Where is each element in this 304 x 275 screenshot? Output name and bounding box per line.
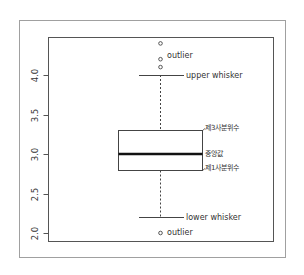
iqr-box [119,131,203,171]
annotation-outlier-top: outlier [167,51,193,60]
outlier-points [159,42,163,235]
box-plot-figure: 2.02.53.03.54.0 outlierupper whisker제3사분… [0,0,304,275]
outer-frame [20,21,286,258]
annotation-median: 중앙값 [205,150,224,158]
annotations: outlierupper whisker제3사분위수중앙값제1사분위수lower… [167,51,243,237]
annotation-outlier-bottom: outlier [167,228,193,237]
y-tick-label: 4.0 [30,69,40,83]
annotation-upper-whisker: upper whisker [186,71,243,80]
annotation-lower-whisker: lower whisker [186,213,242,222]
y-tick-label: 2.0 [30,227,40,241]
outlier-point [159,231,163,235]
annotation-q1: 제1사분위수 [205,163,240,172]
y-tick-label: 3.0 [30,148,40,162]
y-tick-label: 2.5 [30,188,40,202]
y-tick-label: 3.5 [30,109,40,123]
annotation-q3: 제3사분위수 [205,123,240,132]
outlier-point [159,65,163,69]
y-axis: 2.02.53.03.54.0 [30,69,49,241]
outlier-point [159,42,163,46]
outlier-point [159,57,163,61]
